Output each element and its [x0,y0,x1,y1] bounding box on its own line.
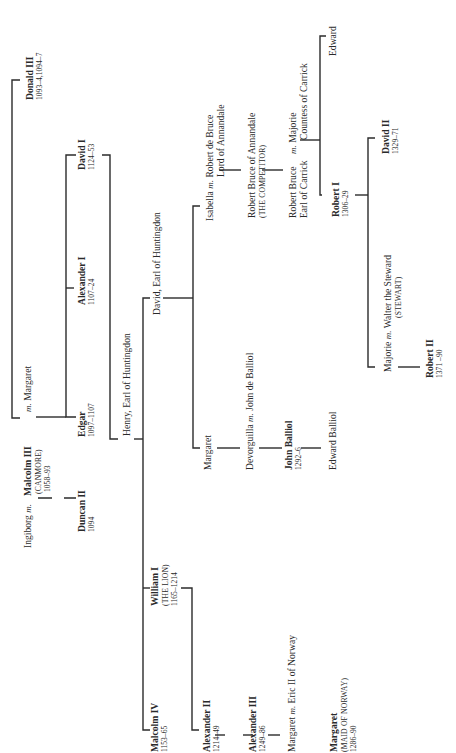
svg-text:David II: David II [380,119,391,154]
svg-text:(THE LION): (THE LION) [161,564,170,606]
person-margaret-norway: Margaret m. Eric II of Norway [286,635,297,752]
person-robert-ii: Robert II 1371 –90 [424,339,444,378]
svg-text:Alexander III: Alexander III [247,696,258,752]
svg-text:David I: David I [76,139,87,170]
person-william-i: William I (THE LION) 1165–1214 [149,564,179,606]
svg-text:Duncan II: Duncan II [76,490,87,532]
line-davidearl-daughters [193,206,200,448]
svg-text:Devorguilla m. John de Balliol: Devorguilla m. John de Balliol [244,352,255,470]
svg-text:Robert Bruce of Annandale: Robert Bruce of Annandale [246,113,257,218]
person-malcolm-iii: Malcolm III (CANMORE) 1058–93 [22,446,52,496]
svg-text:1124–53: 1124–53 [87,144,96,170]
svg-text:William I: William I [149,567,160,606]
person-margaret-huntingdon: Margaret [202,435,213,470]
person-edgar: Edgar 1097–1107 [76,403,96,437]
line-robert1-children [368,138,375,367]
svg-text:Earl of Carrick: Earl of Carrick [298,160,309,218]
line-donald-malcolm [12,80,20,418]
svg-text:m. Margaret: m. Margaret [22,366,33,412]
person-duncan-ii: Duncan II 1094 [76,490,96,532]
svg-text:David, Earl of Huntingdon: David, Earl of Huntingdon [151,212,162,315]
person-robert-i: Robert I 1306–29 [330,182,350,217]
person-ingiborg: Ingiborg m. [22,504,33,548]
person-alexander-i: Alexander I 1107–24 [76,256,96,305]
person-carrick: Robert Bruce Earl of Carrick [287,160,309,218]
svg-text:1292–6: 1292–6 [294,447,303,470]
svg-text:1329–71: 1329–71 [391,127,400,154]
svg-text:Alexander II: Alexander II [201,699,212,752]
svg-text:(CANMORE): (CANMORE) [34,449,43,494]
line-carrick-children [320,36,326,195]
person-john-balliol: John Balliol 1292–6 [283,420,303,470]
svg-text:Margaret m. Eric II of Norway: Margaret m. Eric II of Norway [286,635,297,752]
person-majorie-stewart: Majorie m. Walter the Steward (STEWART) [382,255,403,372]
svg-text:Edward Balliol: Edward Balliol [327,411,338,470]
person-malcolm-iv: Malcolm IV 1153–65 [149,703,169,752]
svg-text:Isabella m. Robert de Bruce: Isabella m. Robert de Bruce [204,115,215,221]
svg-text:1093–4,1094–7: 1093–4,1094–7 [35,52,44,100]
svg-text:(THE COMPETITOR): (THE COMPETITOR) [258,144,267,218]
svg-text:1153–65: 1153–65 [160,726,169,752]
svg-text:John Balliol: John Balliol [283,420,294,470]
svg-text:1249–86: 1249–86 [258,725,267,752]
svg-text:1097–1107: 1097–1107 [87,403,96,437]
line-david1-henry [102,155,118,439]
svg-text:1371 –90: 1371 –90 [435,349,444,378]
line-henry-children [143,298,150,730]
person-david-ii: David II 1329–71 [380,119,400,154]
person-henry: Henry, Earl of Huntingdon [121,333,132,436]
svg-text:Margaret: Margaret [202,435,213,470]
line-william-alexander2 [181,588,199,730]
person-edward-bruce: Edward [327,26,338,56]
svg-text:Majorie m. Walter the Steward: Majorie m. Walter the Steward [382,255,393,372]
person-alexander-ii: Alexander II 1214–49 [201,699,221,752]
svg-text:(STEWART): (STEWART) [394,276,403,318]
svg-text:Malcolm IV: Malcolm IV [149,703,160,752]
svg-text:Ingiborg m.: Ingiborg m. [22,504,33,548]
person-donald-iii: Donald III 1093–4,1094–7 [24,52,44,100]
svg-text:Malcolm III: Malcolm III [22,446,33,496]
svg-text:Countess of Carrick: Countess of Carrick [298,63,309,140]
svg-text:1094: 1094 [87,517,96,532]
person-devorguilla: Devorguilla m. John de Balliol [244,352,255,470]
person-edward-balliol: Edward Balliol [327,411,338,470]
person-david-earl: David, Earl of Huntingdon [151,212,162,315]
svg-text:Donald III: Donald III [24,56,35,100]
svg-text:1306–29: 1306–29 [341,190,350,217]
svg-text:Lord of Annandale: Lord of Annandale [215,105,226,177]
family-tree-diagram: Donald III 1093–4,1094–7 Ingiborg m. Mal… [0,0,456,753]
svg-text:Margaret: Margaret [328,712,339,752]
svg-text:1165–1214: 1165–1214 [170,572,179,606]
svg-text:Robert I: Robert I [330,182,341,217]
person-isabella: Isabella m. Robert de Bruce Lord of Anna… [204,105,226,221]
line-edgar-david-bracket [66,155,76,417]
spouse-majorie-carrick: m. Majorie Countess of Carrick [287,63,309,154]
svg-text:Edward: Edward [327,26,338,56]
svg-text:Robert Bruce: Robert Bruce [287,167,298,218]
svg-text:m. Majorie: m. Majorie [287,112,298,154]
svg-text:1214–49: 1214–49 [212,725,221,752]
spouse-margaret: m. Margaret [22,366,33,412]
svg-text:1286–90: 1286–90 [349,725,358,752]
svg-text:(MAID OF NORWAY): (MAID OF NORWAY) [340,678,349,752]
svg-text:Edgar: Edgar [76,411,87,437]
person-alexander-iii: Alexander III 1249–86 [247,696,267,752]
svg-text:1058–93: 1058–93 [43,465,52,492]
person-maid-of-norway: Margaret (MAID OF NORWAY) 1286–90 [328,678,358,752]
svg-text:Henry, Earl of Huntingdon: Henry, Earl of Huntingdon [121,333,132,436]
svg-text:1107–24: 1107–24 [87,279,96,305]
person-david-i: David I 1124–53 [76,139,96,170]
person-competitor: Robert Bruce of Annandale (THE COMPETITO… [246,113,267,218]
svg-text:Robert II: Robert II [424,339,435,378]
svg-text:Alexander I: Alexander I [76,256,87,305]
